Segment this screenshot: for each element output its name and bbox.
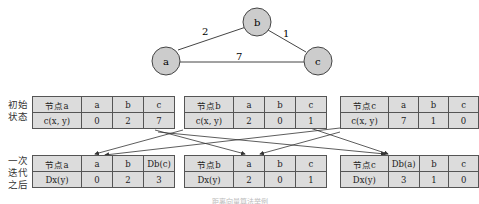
arrow-b-to-c <box>310 128 388 154</box>
cell-value: 1 <box>419 172 449 188</box>
cell-value: 1 <box>419 113 449 129</box>
cell-value: 3 <box>144 172 175 188</box>
initial-table-a: 节点aabc c(x, y)027 <box>32 96 175 129</box>
col-label: a <box>389 97 419 113</box>
col-label: b <box>265 97 296 113</box>
after-table-b: 节点babc Dx(y)201 <box>184 155 327 188</box>
cell-value: 2 <box>113 113 144 129</box>
row-label-initial-line1: 初始 <box>8 99 28 111</box>
cell-value: 2 <box>234 113 265 129</box>
col-label: Db(a) <box>388 156 419 172</box>
cell-value: 0 <box>265 172 296 188</box>
cell-value: 2 <box>234 172 265 188</box>
node-b-label: b <box>254 17 260 28</box>
initial-table-b: 节点babc c(x, y)201 <box>184 96 327 129</box>
row-label: c(x, y) <box>33 113 82 129</box>
cell-value: 1 <box>296 113 327 129</box>
col-label: a <box>82 97 113 113</box>
col-label: c <box>449 156 479 172</box>
row-label: c(x, y) <box>341 113 389 129</box>
col-label: c <box>296 156 327 172</box>
cell-value: 0 <box>449 113 479 129</box>
row-label-initial-line2: 状态 <box>8 111 28 123</box>
col-label: b <box>113 97 144 113</box>
node-a-label: a <box>163 56 169 67</box>
row-label-after-line1: 一次 <box>8 155 28 167</box>
row-label: Dx(y) <box>185 172 234 188</box>
table-header: 节点c <box>341 97 389 113</box>
row-label: Dx(y) <box>341 172 389 188</box>
col-label: b <box>419 97 449 113</box>
table-header: 节点b <box>185 97 234 113</box>
edge-weight-ac: 7 <box>236 51 242 62</box>
after-table-c: 节点cDb(a)bc Dx(y)310 <box>340 155 479 188</box>
col-label: a <box>82 156 113 172</box>
node-c-label: c <box>315 56 321 67</box>
initial-table-c: 节点cabc c(x, y)710 <box>340 96 479 129</box>
row-label-initial: 初始 状态 <box>8 99 28 123</box>
cell-value: 7 <box>144 113 175 129</box>
row-label: c(x, y) <box>185 113 234 129</box>
after-table-a: 节点aabDb(c) Dx(y)023 <box>32 155 175 188</box>
row-label-after: 一次 迭代 之后 <box>8 155 28 191</box>
arrow-b-to-a <box>95 130 183 154</box>
col-label: a <box>234 156 265 172</box>
row-label-after-line3: 之后 <box>8 179 28 191</box>
figure-caption: 距离向量算法举例 <box>0 196 479 204</box>
row-label: Dx(y) <box>33 172 82 188</box>
col-label: a <box>234 97 265 113</box>
cell-value: 0 <box>82 113 113 129</box>
table-header: 节点a <box>33 97 82 113</box>
cell-value: 7 <box>389 113 419 129</box>
col-label: Db(c) <box>144 156 175 172</box>
col-label: b <box>419 156 449 172</box>
col-label: c <box>296 97 327 113</box>
edge-weight-ab: 2 <box>202 26 208 37</box>
table-header: 节点c <box>341 156 389 172</box>
cell-value: 0 <box>265 113 296 129</box>
col-label: b <box>265 156 296 172</box>
table-header: 节点a <box>33 156 82 172</box>
edge-weight-bc: 1 <box>283 28 289 39</box>
cell-value: 2 <box>113 172 144 188</box>
cell-value: 0 <box>449 172 479 188</box>
cell-value: 1 <box>296 172 327 188</box>
edge-a-b <box>178 27 246 50</box>
cell-value: 0 <box>82 172 113 188</box>
row-label-after-line2: 迭代 <box>8 167 28 179</box>
col-label: c <box>449 97 479 113</box>
col-label: c <box>144 97 175 113</box>
cell-value: 3 <box>388 172 419 188</box>
col-label: b <box>113 156 144 172</box>
table-header: 节点b <box>185 156 234 172</box>
